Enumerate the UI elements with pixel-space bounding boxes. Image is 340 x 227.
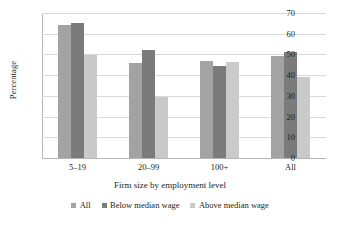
bar-group xyxy=(129,13,168,158)
y-tick-label: 70 xyxy=(269,9,295,18)
bar xyxy=(226,62,239,158)
bar xyxy=(155,97,168,158)
legend-swatch-icon xyxy=(102,203,107,208)
bar xyxy=(297,77,310,158)
bar-group xyxy=(58,13,97,158)
legend-item[interactable]: All xyxy=(71,200,90,210)
legend-item[interactable]: Above median wage xyxy=(190,200,268,210)
y-tick-label: 60 xyxy=(269,30,295,39)
x-axis-title-label: Firm size by employment level xyxy=(114,180,226,190)
y-tick-label: 30 xyxy=(269,92,295,101)
y-tick-label: 20 xyxy=(269,113,295,122)
bar xyxy=(58,25,71,158)
bar xyxy=(142,50,155,158)
x-tick-label: 5–19 xyxy=(42,162,113,172)
legend-label: Below median wage xyxy=(110,200,179,210)
x-tick-label: 20–99 xyxy=(113,162,184,172)
x-tick-label: All xyxy=(255,162,326,172)
y-axis-title: Percentage xyxy=(2,0,24,160)
legend-item[interactable]: Below median wage xyxy=(102,200,180,210)
bar-chart: Percentage 010203040506070 5–1920–99100+… xyxy=(0,0,340,227)
x-tick-label: 100+ xyxy=(184,162,255,172)
bar xyxy=(84,55,97,158)
bar xyxy=(200,61,213,158)
y-tick-label: 10 xyxy=(269,133,295,142)
legend-label: Above median wage xyxy=(199,200,269,210)
bar xyxy=(284,52,297,158)
bar xyxy=(129,63,142,158)
legend-label: All xyxy=(80,200,91,210)
y-tick-label: 50 xyxy=(269,50,295,59)
y-tick-label: 40 xyxy=(269,71,295,80)
x-tick-labels: 5–1920–99100+All xyxy=(42,162,326,176)
bar xyxy=(71,23,84,158)
chart-legend: AllBelow median wageAbove median wage xyxy=(0,200,340,210)
x-axis-title: Firm size by employment level xyxy=(0,180,340,190)
bar-group xyxy=(200,13,239,158)
legend-swatch-icon xyxy=(190,203,195,208)
y-axis-title-label: Percentage xyxy=(8,61,18,99)
bar xyxy=(213,66,226,158)
legend-swatch-icon xyxy=(71,203,76,208)
